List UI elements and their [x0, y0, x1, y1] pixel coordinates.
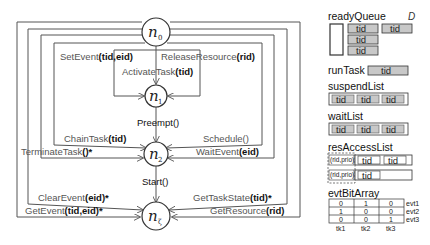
svg-text:0: 0 [364, 208, 368, 215]
svg-text:(rid,prio): (rid,prio) [330, 156, 354, 164]
ready-queue-title: readyQueue [328, 10, 386, 22]
node-n2: n 2 [144, 142, 168, 166]
svg-text:evt1: evt1 [406, 200, 419, 207]
svg-text:evt3: evt3 [406, 216, 419, 223]
svg-text:1: 1 [158, 98, 162, 106]
svg-text:tid: tid [356, 34, 366, 45]
evt-bit-array-title: evtBitArray [328, 187, 380, 199]
svg-text:2: 2 [158, 156, 162, 164]
svg-text:tid: tid [386, 124, 396, 135]
label-terminate-task: TerminateTask()* [21, 146, 93, 157]
node-n1: n 1 [145, 85, 167, 107]
res-access-list-title: resAccessList [328, 141, 393, 153]
svg-text:evt2: evt2 [406, 208, 419, 215]
label-set-event: SetEvent(tid,eid) [60, 51, 133, 62]
domain-label: D [408, 11, 415, 22]
svg-text:(rid,prio): (rid,prio) [330, 171, 354, 179]
label-preempt: Preempt() [137, 117, 179, 128]
state-machine-diagram: n 0 n 1 n 2 n ζ SetEvent(tid,eid) Releas… [0, 0, 430, 245]
ready-queue-items: tid tid tid tid [348, 23, 412, 56]
label-get-task-state: GetTaskState(tid)* [193, 192, 272, 203]
svg-text:tk3: tk3 [386, 225, 395, 232]
suspend-list-title: suspendList [328, 80, 384, 92]
svg-text:tid: tid [336, 124, 346, 135]
svg-text:tid: tid [356, 45, 366, 56]
svg-text:n: n [148, 207, 158, 225]
label-start: Start() [142, 176, 168, 187]
label-chain-task: ChainTask(tid) [64, 133, 126, 144]
state-panel: readyQueue D tid tid tid tid runTask tid… [327, 10, 419, 232]
svg-text:1: 1 [389, 216, 393, 223]
label-clear-event: ClearEvent(eid)* [38, 192, 109, 203]
run-task-title: runTask [328, 64, 366, 76]
run-task-value: tid [381, 65, 391, 76]
node-nzeta: n ζ [142, 202, 170, 230]
svg-text:tid: tid [386, 94, 396, 105]
svg-text:tid: tid [390, 23, 400, 34]
label-activate-task: ActivateTask(tid) [122, 66, 193, 77]
svg-text:tk1: tk1 [336, 225, 345, 232]
svg-text:tk2: tk2 [361, 225, 370, 232]
svg-text:tid: tid [388, 155, 398, 166]
wait-list-title: waitList [327, 110, 363, 122]
svg-text:ζ: ζ [158, 218, 162, 226]
label-schedule: Schedule() [203, 133, 249, 144]
svg-text:1: 1 [364, 200, 368, 207]
svg-text:tid: tid [362, 155, 372, 166]
svg-text:1: 1 [339, 208, 343, 215]
node-n0: n 0 [142, 18, 170, 46]
svg-text:0: 0 [389, 200, 393, 207]
svg-text:0: 0 [339, 200, 343, 207]
label-wait-event: WaitEvent(eid) [196, 146, 259, 157]
svg-text:n: n [148, 23, 158, 41]
svg-text:tid: tid [356, 23, 366, 34]
svg-text:tid: tid [336, 94, 346, 105]
svg-text:0: 0 [364, 216, 368, 223]
svg-text:0: 0 [389, 208, 393, 215]
label-get-resource: GetResource(rid) [210, 205, 284, 216]
svg-text:0: 0 [339, 216, 343, 223]
label-get-event: GetEvent(tid,eid)* [25, 205, 103, 216]
svg-text:tid: tid [361, 124, 371, 135]
label-release-resource: ReleaseResource(rid) [161, 51, 255, 62]
svg-text:tid: tid [362, 170, 372, 181]
svg-text:tid: tid [361, 94, 371, 105]
svg-text:0: 0 [158, 34, 162, 42]
